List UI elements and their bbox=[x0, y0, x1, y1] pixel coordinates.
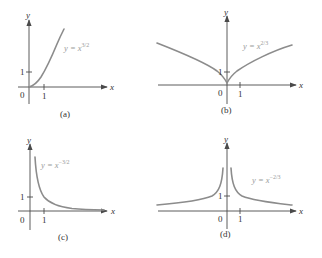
curve-x-2-3 bbox=[157, 43, 292, 83]
y-axis-label: y bbox=[25, 10, 30, 20]
origin-label: 0 bbox=[218, 88, 223, 98]
x-tick-label: 1 bbox=[42, 91, 47, 101]
y-axis-label: y bbox=[223, 134, 228, 144]
function-label: y = x−3/2 bbox=[40, 159, 70, 170]
x-axis-label: x bbox=[109, 82, 114, 92]
panel-caption: (a) bbox=[60, 109, 70, 119]
x-tick-label: 1 bbox=[42, 215, 47, 225]
curve-x-3-2 bbox=[29, 29, 64, 87]
y-tick-label: 1 bbox=[20, 67, 25, 77]
panel-b: x y 0 1 1 y = x2/3 (b) bbox=[157, 7, 303, 115]
origin-label: 0 bbox=[20, 90, 25, 100]
y-tick-label: 1 bbox=[20, 192, 25, 202]
x-tick-label: 1 bbox=[238, 214, 243, 224]
panel-caption: (b) bbox=[221, 105, 232, 115]
y-tick-label: 1 bbox=[218, 191, 223, 201]
x-axis-label: x bbox=[110, 206, 115, 216]
origin-label: 0 bbox=[20, 215, 25, 225]
panel-d: x y 0 1 1 y = x−2/3 (d) bbox=[157, 134, 303, 239]
y-axis-label: y bbox=[26, 135, 31, 145]
curve-x-neg-2-3-right bbox=[231, 168, 292, 205]
y-tick-label: 1 bbox=[218, 67, 223, 77]
panel-c: x y 0 1 1 y = x−3/2 (c) bbox=[18, 135, 115, 242]
x-axis-label: x bbox=[298, 206, 303, 216]
y-axis-label: y bbox=[223, 7, 228, 17]
origin-label: 0 bbox=[218, 214, 223, 224]
panel-a: x y 0 1 1 y = x3/2 (a) bbox=[18, 10, 114, 119]
x-axis-label: x bbox=[298, 80, 303, 90]
power-function-graphs-figure: x y 0 1 1 y = x3/2 (a) x y 0 1 1 y = x2/… bbox=[0, 0, 322, 258]
function-label: y = x2/3 bbox=[242, 40, 268, 51]
x-tick-label: 1 bbox=[238, 89, 243, 99]
curve-x-neg-2-3-left bbox=[157, 168, 223, 205]
function-label: y = x3/2 bbox=[63, 42, 89, 53]
panel-caption: (d) bbox=[220, 229, 231, 239]
function-label: y = x−2/3 bbox=[251, 174, 281, 185]
panel-caption: (c) bbox=[58, 232, 68, 242]
